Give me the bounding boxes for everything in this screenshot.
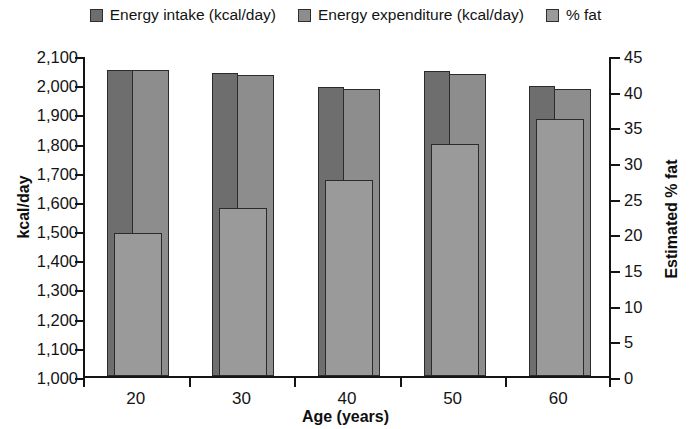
legend-swatch-icon-energy-intake — [90, 9, 103, 22]
chart-legend: Energy intake (kcal/day) Energy expendit… — [0, 0, 691, 30]
y-axis-left-tick-label: 1,400 — [37, 252, 78, 271]
legend-swatch-icon-percent-fat — [546, 9, 559, 22]
y-axis-left-tick-label: 1,000 — [37, 369, 78, 388]
y-axis-left-tick-label: 1,200 — [37, 310, 78, 329]
legend-swatch-icon-energy-expenditure — [298, 9, 311, 22]
y-axis-left-tick-label: 2,000 — [37, 77, 78, 96]
y-axis-right-tick-label: 15 — [624, 262, 642, 281]
y-axis-left-tick-label: 1,500 — [37, 223, 78, 242]
x-axis-tick — [505, 378, 507, 387]
bar-percent-fat[interactable] — [219, 208, 267, 376]
plot-area — [83, 57, 611, 378]
x-axis-tick-label: 20 — [126, 389, 145, 409]
y-axis-left-tick-label: 1,700 — [37, 164, 78, 183]
y-axis-left-tick — [75, 174, 83, 176]
bar-group — [529, 57, 591, 376]
y-axis-left-tick — [75, 232, 83, 234]
y-axis-right-labels: 051015202530354045 — [624, 57, 664, 378]
y-axis-right-tick-label: 35 — [624, 119, 642, 138]
x-axis-tick-label: 60 — [549, 389, 568, 409]
y-axis-right-tick-label: 40 — [624, 83, 642, 102]
y-axis-right-tick-label: 5 — [624, 333, 633, 352]
y-axis-left-labels: 1,0001,1001,2001,3001,4001,5001,6001,700… — [0, 57, 78, 378]
legend-item-percent-fat: % fat — [546, 6, 601, 24]
bar-group — [424, 57, 486, 376]
x-axis-tick — [609, 378, 611, 387]
y-axis-right-tick — [611, 128, 620, 130]
x-axis-tick — [294, 378, 296, 387]
legend-label-energy-intake: Energy intake (kcal/day) — [110, 6, 276, 24]
bar-percent-fat[interactable] — [114, 233, 162, 376]
y-axis-right-tick — [611, 307, 620, 309]
y-axis-right-title: Estimated % fat — [663, 139, 681, 299]
bar-group — [318, 57, 380, 376]
bar-percent-fat[interactable] — [325, 180, 373, 376]
y-axis-left-tick — [75, 115, 83, 117]
y-axis-right-tick-label: 30 — [624, 155, 642, 174]
legend-label-percent-fat: % fat — [566, 6, 601, 24]
y-axis-left-tick — [75, 349, 83, 351]
y-axis-right-tick — [611, 93, 620, 95]
y-axis-right-tick-label: 25 — [624, 190, 642, 209]
y-axis-right-tick — [611, 271, 620, 273]
x-axis-tick-label: 40 — [338, 389, 357, 409]
bar-percent-fat[interactable] — [431, 144, 479, 376]
y-axis-left-tick — [75, 320, 83, 322]
y-axis-right-tick — [611, 235, 620, 237]
legend-item-energy-expenditure: Energy expenditure (kcal/day) — [298, 6, 524, 24]
y-axis-right-tick-label: 45 — [624, 48, 642, 67]
y-axis-left-tick-label: 1,100 — [37, 339, 78, 358]
y-axis-right-tick-label: 10 — [624, 297, 642, 316]
x-axis-tick — [189, 378, 191, 387]
y-axis-left-tick-label: 1,800 — [37, 135, 78, 154]
y-axis-right-tick-label: 20 — [624, 226, 642, 245]
y-axis-right-tick-label: 0 — [624, 369, 633, 388]
y-axis-right-tick — [611, 164, 620, 166]
y-axis-left-tick-label: 1,900 — [37, 106, 78, 125]
y-axis-left-tick — [75, 378, 83, 380]
y-axis-right-ticks — [611, 57, 612, 378]
x-axis-ticks — [83, 378, 611, 388]
y-axis-left-tick — [75, 261, 83, 263]
x-axis-tick — [400, 378, 402, 387]
y-axis-left-tick-label: 2,100 — [37, 48, 78, 67]
bar-group — [212, 57, 274, 376]
y-axis-left-tick-label: 1,300 — [37, 281, 78, 300]
y-axis-left-tick — [75, 203, 83, 205]
x-axis-title: Age (years) — [0, 408, 691, 426]
x-axis-tick-label: 50 — [443, 389, 462, 409]
y-axis-left-tick — [75, 290, 83, 292]
y-axis-left-tick — [75, 57, 83, 59]
y-axis-left-title: kcal/day — [15, 157, 33, 257]
y-axis-right-tick — [611, 378, 620, 380]
y-axis-right-tick — [611, 200, 620, 202]
legend-label-energy-expenditure: Energy expenditure (kcal/day) — [318, 6, 524, 24]
bar-percent-fat[interactable] — [536, 119, 584, 376]
bar-series-container — [85, 57, 609, 376]
legend-item-energy-intake: Energy intake (kcal/day) — [90, 6, 276, 24]
y-axis-right-tick — [611, 342, 620, 344]
y-axis-left-tick — [75, 86, 83, 88]
y-axis-left-tick-label: 1,600 — [37, 193, 78, 212]
bar-group — [107, 57, 169, 376]
y-axis-left-tick — [75, 145, 83, 147]
x-axis-tick — [83, 378, 85, 387]
y-axis-right-tick — [611, 57, 620, 59]
x-axis-tick-label: 30 — [232, 389, 251, 409]
